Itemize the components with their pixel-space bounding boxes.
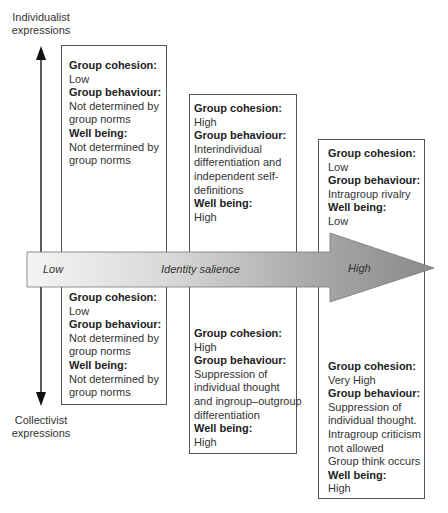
behaviour-value: Intragroup rivalry [328, 188, 420, 202]
cohesion-heading: Group cohesion: [69, 59, 161, 73]
salience-high-label: High [348, 262, 371, 274]
wellbeing-value: Low [328, 215, 420, 229]
cohesion-value: Low [69, 305, 161, 319]
cohesion-heading: Group cohesion: [69, 291, 161, 305]
behaviour-value: Not determined by group norms [69, 100, 161, 127]
cohesion-value: Very High [328, 374, 421, 388]
behaviour-heading: Group behaviour: [328, 387, 421, 401]
salience-low-label: Low [43, 263, 63, 275]
cohesion-value: Low [328, 161, 420, 175]
panel-low-individualist: Group cohesion: Low Group behaviour: Not… [69, 59, 161, 168]
cohesion-heading: Group cohesion: [194, 102, 286, 116]
down-arrowhead-icon [36, 392, 46, 406]
wellbeing-heading: Well being: [328, 201, 420, 215]
wellbeing-heading: Well being: [194, 422, 302, 436]
wellbeing-heading: Well being: [69, 127, 161, 141]
wellbeing-heading: Well being: [69, 359, 161, 373]
wellbeing-value: High [194, 211, 286, 225]
individualist-label: Individualist expressions [5, 11, 77, 37]
salience-title: Identity salience [161, 263, 240, 275]
vertical-axis [36, 46, 46, 406]
cohesion-value: Low [69, 73, 161, 87]
cohesion-heading: Group cohesion: [328, 147, 420, 161]
cohesion-heading: Group cohesion: [328, 360, 421, 374]
collectivist-label: Collectivist expressions [5, 414, 77, 440]
panel-medium-collectivist: Group cohesion: High Group behaviour: Su… [194, 327, 302, 449]
behaviour-heading: Group behaviour: [69, 86, 161, 100]
wellbeing-value: Not determined by group norms [69, 373, 161, 400]
wellbeing-heading: Well being: [328, 469, 421, 483]
behaviour-heading: Group behaviour: [194, 354, 302, 368]
behaviour-heading: Group behaviour: [69, 318, 161, 332]
wellbeing-heading: Well being: [194, 197, 286, 211]
up-arrowhead-icon [36, 46, 46, 60]
wellbeing-value: Not determined by group norms [69, 141, 161, 168]
behaviour-value: Suppression of individual thought and in… [194, 368, 302, 422]
panel-low-collectivist: Group cohesion: Low Group behaviour: Not… [69, 291, 161, 400]
behaviour-value: Not determined by group norms [69, 332, 161, 359]
behaviour-heading: Group behaviour: [194, 129, 286, 143]
cohesion-value: High [194, 116, 286, 130]
panel-high-collectivist: Group cohesion: Very High Group behaviou… [328, 360, 421, 496]
wellbeing-value: High [328, 482, 421, 496]
cohesion-value: High [194, 341, 302, 355]
panel-high-individualist: Group cohesion: Low Group behaviour: Int… [328, 147, 420, 229]
behaviour-value: Interindividual differentiation and inde… [194, 143, 286, 197]
wellbeing-value: High [194, 436, 302, 450]
cohesion-heading: Group cohesion: [194, 327, 302, 341]
behaviour-heading: Group behaviour: [328, 174, 420, 188]
panel-medium-individualist: Group cohesion: High Group behaviour: In… [194, 102, 286, 224]
behaviour-value: Suppression of individual thought. Intra… [328, 401, 421, 469]
